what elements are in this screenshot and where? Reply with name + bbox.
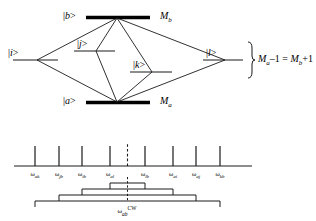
state-label-l: |l> [206, 48, 216, 58]
center-frequency-label: ωabCW [118, 205, 137, 217]
spectrum-line-label: ωaj [192, 170, 200, 179]
magnetic-quantum-number-equation: Ma–1 = Mb+1 [258, 54, 313, 67]
state-label-k: |k> [133, 60, 145, 70]
level-quantum-number-b: Mb [160, 11, 172, 24]
figure-root: |b> Mb |a> Ma |i> |j> |k> |l> Ma–1 = Mb+… [0, 0, 316, 221]
state-label-b: |b> [63, 11, 76, 21]
spectrum-line-label: ωkb [215, 170, 224, 179]
spectrum-line-label: ωib [78, 170, 86, 179]
right-brace [248, 42, 255, 78]
transition-k-a [117, 72, 152, 102]
state-label-i: |i> [8, 48, 18, 58]
state-label-a: |a> [63, 96, 76, 106]
spectrum-line-label: ωai [169, 170, 177, 179]
spectrum-line-label: ωal [106, 170, 114, 179]
transition-j-b [96, 18, 117, 51]
spectrum-line-label: ωlb [141, 170, 149, 179]
state-label-j: |j> [77, 39, 87, 49]
transition-i-a [37, 60, 117, 102]
level-quantum-number-a: Ma [160, 96, 172, 109]
level-diagram-lines [0, 0, 316, 221]
spectrum-line-label: ωak [30, 170, 39, 179]
transition-j-a [96, 51, 117, 102]
spectrum-line-label: ωjb [55, 170, 63, 179]
